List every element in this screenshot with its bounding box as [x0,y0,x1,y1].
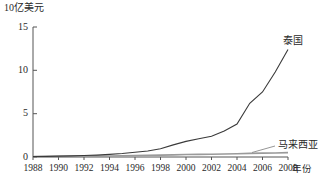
y-axis-title: 10亿美元 [4,3,44,13]
x-tick-label-2008: 2008 [275,164,301,174]
x-tick-label-2006: 2006 [250,164,276,174]
x-tick-label-1988: 1988 [20,164,46,174]
series-label-thailand: 泰国 [283,36,303,46]
series-line-thailand [33,50,288,157]
y-tick-label-0: 0 [12,152,28,162]
y-tick-label-15: 15 [12,22,28,32]
x-tick-label-2004: 2004 [224,164,250,174]
line-chart: 10亿美元 年份 15 10 5 0 1988 1990 1992 1994 1… [0,0,329,184]
x-tick-label-1990: 1990 [46,164,72,174]
x-tick-label-2000: 2000 [173,164,199,174]
x-tick-label-1998: 1998 [148,164,174,174]
chart-plot-area [0,0,329,184]
x-tick-label-2002: 2002 [199,164,225,174]
x-tick-label-1994: 1994 [97,164,123,174]
y-tick-label-5: 5 [12,108,28,118]
series-label-malaysia: 马来西亚 [278,140,318,150]
x-tick-label-1992: 1992 [71,164,97,174]
malaysia-label-leader-line [252,146,275,153]
x-tick-label-1996: 1996 [122,164,148,174]
y-tick-marks [33,27,37,157]
y-tick-label-10: 10 [12,65,28,75]
